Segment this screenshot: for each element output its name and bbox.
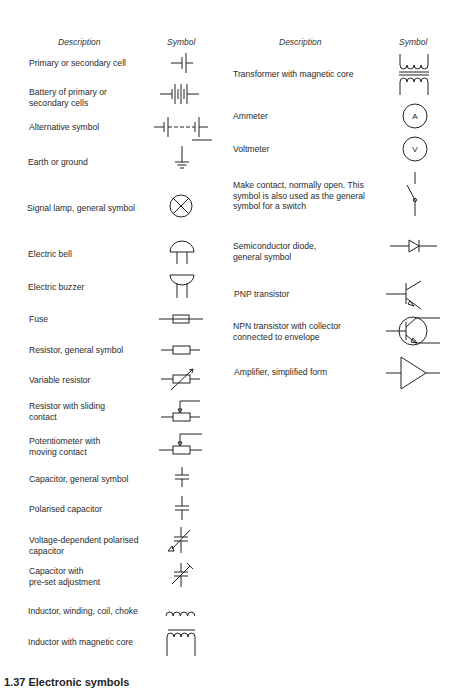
transformer-icon [399, 53, 433, 97]
label-ammeter: Ammeter [233, 111, 268, 122]
diode-icon [390, 238, 440, 254]
potentiometer-icon [159, 432, 205, 456]
label-preset-capacitor: Capacitor with pre-set adjustment [29, 566, 100, 587]
inductor-icon [166, 608, 200, 618]
fuse-icon [159, 313, 205, 325]
label-electric-buzzer: Electric buzzer [28, 282, 84, 293]
cell-icon [171, 53, 201, 73]
label-voltage-capacitor: Voltage-dependent polarised capacitor [29, 535, 138, 556]
label-earth: Earth or ground [28, 157, 88, 168]
right-symbol-header: Symbol [399, 37, 427, 47]
label-inductor: Inductor, winding, coil, choke [28, 606, 138, 617]
bell-icon [169, 240, 195, 266]
label-alternative: Alternative symbol [29, 122, 99, 133]
ammeter-glyph: A [412, 112, 418, 121]
label-potentiometer: Potentiometer with moving contact [29, 436, 100, 457]
label-signal-lamp: Signal lamp, general symbol [27, 203, 135, 214]
ammeter-icon: A [402, 103, 430, 131]
battery-icon [160, 83, 202, 105]
lamp-icon [169, 194, 195, 220]
amplifier-icon [386, 356, 442, 390]
label-diode: Semiconductor diode, general symbol [233, 241, 316, 262]
label-primary-cell: Primary or secondary cell [29, 58, 126, 69]
ground-icon [173, 146, 193, 172]
pnp-transistor-icon [386, 280, 430, 310]
polarised-capacitor-icon [173, 496, 193, 522]
label-transformer: Transformer with magnetic core [233, 69, 354, 80]
sliding-resistor-icon [161, 399, 203, 423]
label-electric-bell: Electric bell [28, 249, 72, 260]
variable-resistor-icon [161, 367, 203, 391]
label-amplifier: Amplifier, simplified form [234, 367, 327, 378]
voltmeter-glyph: V [412, 145, 418, 154]
inductor-core-icon [166, 628, 200, 658]
left-symbol-header: Symbol [167, 37, 195, 47]
preset-capacitor-icon [166, 563, 196, 589]
label-sliding-resistor: Resistor with sliding contact [29, 401, 105, 422]
label-battery: Battery of primary or secondary cells [29, 87, 107, 108]
left-description-header: Description [58, 37, 101, 47]
label-voltmeter: Voltmeter [233, 144, 269, 155]
voltage-capacitor-icon [166, 527, 196, 555]
switch-icon [406, 171, 426, 219]
label-polarised-capacitor: Polarised capacitor [29, 504, 102, 515]
npn-transistor-icon [386, 313, 442, 349]
label-pnp: PNP transistor [234, 289, 289, 300]
label-resistor: Resistor, general symbol [29, 345, 123, 356]
battery-alt-icon [154, 116, 214, 146]
label-switch: Make contact, normally open. This symbol… [233, 180, 365, 212]
right-description-header: Description [279, 37, 322, 47]
voltmeter-icon: V [402, 136, 430, 164]
buzzer-icon [169, 274, 195, 300]
label-variable-resistor: Variable resistor [29, 375, 90, 386]
figure-caption: 1.37 Electronic symbols [4, 676, 129, 688]
label-capacitor: Capacitor, general symbol [29, 474, 128, 485]
label-npn: NPN transistor with collector connected … [233, 321, 341, 342]
capacitor-icon [173, 467, 193, 489]
resistor-icon [161, 344, 203, 356]
label-fuse: Fuse [29, 314, 48, 325]
label-inductor-core: Inductor with magnetic core [28, 637, 133, 648]
